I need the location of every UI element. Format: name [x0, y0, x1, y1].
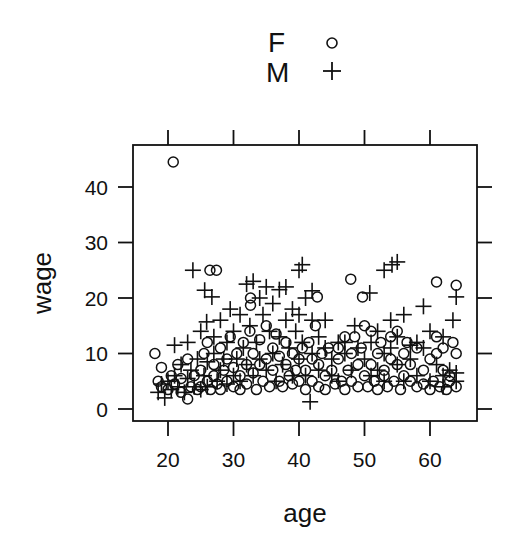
- point-m: [197, 282, 213, 298]
- y-tick-label: 20: [85, 287, 108, 310]
- point-m: [288, 323, 304, 339]
- point-m: [226, 323, 242, 339]
- point-f: [246, 300, 256, 310]
- point-m: [204, 289, 220, 305]
- point-m: [268, 373, 284, 389]
- point-m: [255, 307, 271, 323]
- point-f: [307, 376, 317, 386]
- y-axis-label: wage: [27, 252, 57, 315]
- y-tick-label: 30: [85, 231, 108, 254]
- point-f: [156, 362, 166, 372]
- point-m: [357, 351, 373, 367]
- point-m: [271, 282, 287, 298]
- point-f: [312, 292, 322, 302]
- point-f: [451, 280, 461, 290]
- x-tick-label: 60: [418, 448, 441, 471]
- point-m: [317, 312, 333, 328]
- point-f: [211, 265, 221, 275]
- point-f: [168, 157, 178, 167]
- point-m: [415, 298, 431, 314]
- point-f: [448, 337, 458, 347]
- y-tick-label: 0: [96, 398, 108, 421]
- point-m: [185, 262, 201, 278]
- legend: F M: [266, 27, 341, 88]
- point-f: [353, 360, 363, 370]
- point-f: [346, 274, 356, 284]
- x-tick-label: 40: [287, 448, 310, 471]
- legend-plus-icon: [323, 62, 341, 80]
- point-f: [418, 365, 428, 375]
- x-tick-label: 30: [222, 448, 245, 471]
- point-m: [180, 334, 196, 350]
- y-tick-label: 40: [85, 176, 108, 199]
- legend-label-m: M: [266, 57, 289, 88]
- point-f: [425, 354, 435, 364]
- point-m: [189, 351, 205, 367]
- point-f: [451, 349, 461, 359]
- point-f: [399, 349, 409, 359]
- point-m: [402, 337, 418, 353]
- point-m: [167, 337, 183, 353]
- point-m: [239, 276, 255, 292]
- point-m: [311, 329, 327, 345]
- point-m: [343, 362, 359, 378]
- point-m: [278, 279, 294, 295]
- legend-label-f: F: [268, 27, 285, 58]
- point-m: [199, 354, 215, 370]
- point-f: [432, 277, 442, 287]
- legend-circle-icon: [327, 38, 337, 48]
- point-f: [373, 385, 383, 395]
- point-f: [150, 349, 160, 359]
- point-f: [202, 337, 212, 347]
- point-m: [304, 283, 320, 299]
- x-tick-label: 20: [156, 448, 179, 471]
- y-tick-label: 10: [85, 342, 108, 365]
- point-f: [314, 382, 324, 392]
- point-m: [298, 290, 314, 306]
- point-m: [362, 285, 378, 301]
- point-m: [212, 312, 228, 328]
- point-m: [445, 312, 461, 328]
- point-m: [302, 394, 318, 410]
- point-m: [219, 376, 235, 392]
- x-tick-label: 50: [353, 448, 376, 471]
- point-m: [448, 289, 464, 305]
- point-f: [353, 382, 363, 392]
- point-m: [347, 318, 363, 334]
- point-f: [265, 382, 275, 392]
- axis-tick-labels: 2030405060010203040: [85, 176, 442, 472]
- x-axis-label: age: [283, 498, 326, 528]
- point-f: [320, 385, 330, 395]
- scatter-chart: F M 2030405060010203040 age wage: [0, 0, 516, 550]
- data-points: [150, 157, 464, 410]
